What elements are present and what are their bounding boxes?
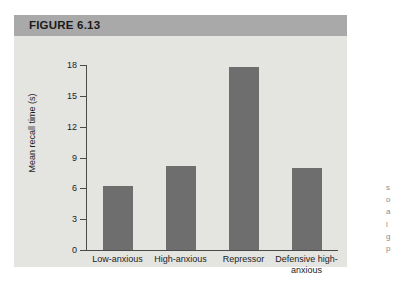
bar <box>292 168 322 250</box>
category-label: High-anxious <box>149 254 212 265</box>
category-label: Defensive high-anxious <box>275 254 338 276</box>
caption-line: g <box>386 231 405 243</box>
y-tick-label: 12 <box>17 122 77 132</box>
caption-line: s <box>386 182 405 194</box>
caption-text-sliver: soalgp <box>386 182 405 260</box>
caption-line: a <box>386 206 405 218</box>
bar <box>166 166 196 250</box>
bar <box>103 186 133 250</box>
x-axis-category-labels: Low-anxiousHigh-anxiousRepressorDefensiv… <box>86 254 338 283</box>
figure-title: FIGURE 6.13 <box>29 19 100 31</box>
y-tick-label: 0 <box>17 245 77 255</box>
category-label: Repressor <box>212 254 275 265</box>
category-label: Low-anxious <box>86 254 149 265</box>
y-tick-label: 6 <box>17 183 77 193</box>
y-tick-label: 3 <box>17 214 77 224</box>
bars-group <box>86 65 338 250</box>
caption-line: p <box>386 243 405 255</box>
caption-line: l <box>386 219 405 231</box>
caption-line: o <box>386 194 405 206</box>
y-tick-label: 18 <box>17 60 77 70</box>
chart-plot-area: Mean recall time (s) 0369121518 Low-anxi… <box>14 36 347 267</box>
figure-header-band: FIGURE 6.13 <box>14 15 347 36</box>
y-tick-label: 15 <box>17 91 77 101</box>
bar <box>229 67 259 250</box>
x-axis-line <box>86 250 338 251</box>
y-tick-mark <box>80 250 86 251</box>
figure-panel: FIGURE 6.13 Mean recall time (s) 0369121… <box>14 15 347 267</box>
y-tick-label: 9 <box>17 153 77 163</box>
